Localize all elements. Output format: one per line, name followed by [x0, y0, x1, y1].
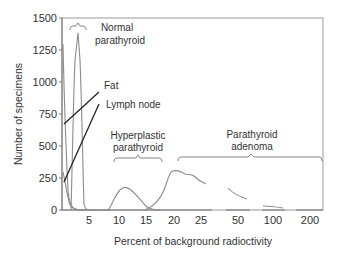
series-curves — [63, 33, 283, 210]
y-tick-label: 250 — [39, 172, 57, 184]
brace-hyperplastic — [114, 155, 162, 162]
annotation-normal-parathyroid: Normal — [101, 22, 133, 33]
curve-parathyroid-adenoma — [145, 171, 206, 210]
x-tick-labels: 5 10 15 20 25 50 100 200 — [86, 214, 319, 226]
y-tick-label: 1250 — [33, 44, 57, 56]
annotation-fat: Fat — [104, 80, 119, 91]
curve-fat — [63, 44, 90, 210]
curve-parathyroid-adenoma-100 — [263, 206, 283, 208]
chart: 1500 1250 1000 750 500 250 0 Number of s… — [0, 0, 340, 253]
annotation-adenoma-2: adenoma — [231, 141, 273, 152]
x-tick-label: 100 — [264, 214, 282, 226]
x-tick-label: 200 — [301, 214, 319, 226]
plot-frame — [62, 18, 323, 210]
annotation-lymph-node: Lymph node — [106, 99, 161, 110]
annotation-adenoma: Parathyroid — [226, 129, 277, 140]
brace-normal — [70, 23, 86, 30]
x-tick-label: 20 — [168, 214, 180, 226]
brace-adenoma — [178, 154, 322, 161]
y-tick-label: 0 — [51, 204, 57, 216]
annotations: Normal parathyroid Fat Lymph node Hyperp… — [95, 22, 278, 153]
y-tick-label: 1500 — [33, 12, 57, 24]
annotation-normal-parathyroid-2: parathyroid — [95, 35, 145, 46]
y-tick-label: 1000 — [33, 76, 57, 88]
curve-hyperplastic-parathyroid — [108, 187, 160, 210]
annotation-hyperplastic: Hyperplastic — [110, 130, 165, 141]
x-tick-label: 25 — [195, 214, 207, 226]
annotation-hyperplastic-2: parathyroid — [113, 142, 163, 153]
curve-normal-parathyroid — [71, 33, 92, 210]
x-axis-label: Percent of background radioctivity — [114, 235, 273, 247]
x-tick-label: 10 — [113, 214, 125, 226]
y-tick-labels: 1500 1250 1000 750 500 250 0 — [33, 12, 57, 216]
x-tick-label: 15 — [140, 214, 152, 226]
y-tick-label: 500 — [39, 140, 57, 152]
x-tick-label: 5 — [86, 214, 92, 226]
curve-parathyroid-adenoma-50 — [228, 188, 247, 199]
y-axis-label: Number of specimens — [12, 63, 24, 165]
y-tick-label: 750 — [39, 108, 57, 120]
x-tick-label: 50 — [232, 214, 244, 226]
